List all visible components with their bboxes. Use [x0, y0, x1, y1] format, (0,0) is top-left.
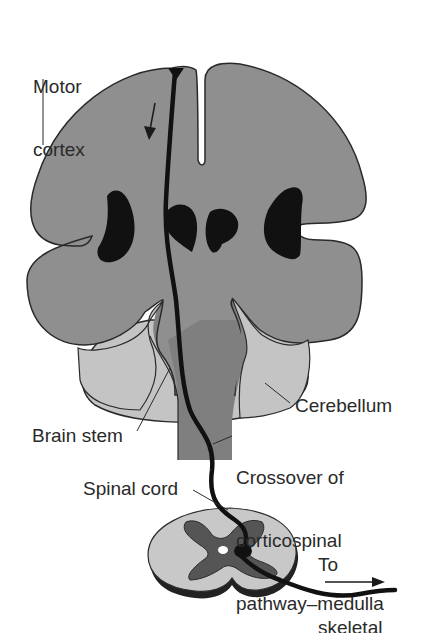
label-motor-cortex-line-1: Motor	[33, 76, 85, 97]
corticospinal-diagram: Motor cortex Cerebellum Brain stem Cross…	[0, 0, 422, 633]
label-motor-cortex-line-2: cortex	[33, 139, 85, 160]
label-to-muscle-line-2: skeletal	[318, 617, 382, 633]
label-cerebellum: Cerebellum	[295, 395, 392, 416]
label-crossover-line-1: Crossover of	[236, 467, 384, 488]
label-to-skeletal-muscle: To skeletal muscle	[318, 512, 382, 633]
label-motor-cortex: Motor cortex	[33, 34, 85, 202]
central-canal	[218, 546, 228, 554]
label-brain-stem: Brain stem	[32, 425, 123, 446]
label-to-muscle-line-1: To	[318, 554, 382, 575]
label-spinal-cord: Spinal cord	[83, 478, 178, 499]
